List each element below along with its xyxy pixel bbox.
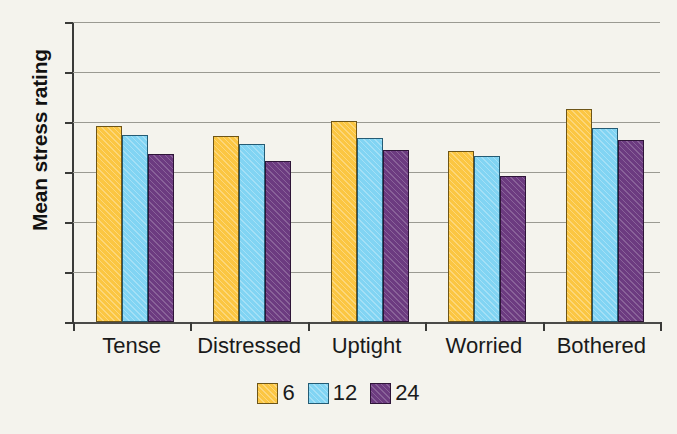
legend-swatch-24 [370, 383, 391, 404]
legend-entry-6: 6 [257, 382, 294, 404]
bar-tense-6 [96, 126, 122, 323]
bar-bothered-6 [566, 109, 592, 323]
bar-chart-figure: Mean stress rating 1234567 TenseDistress… [0, 0, 677, 434]
bar-uptight-6 [331, 121, 357, 323]
bar-tense-24 [148, 154, 174, 322]
bar-distressed-6 [213, 136, 239, 323]
bar-bothered-12 [592, 128, 618, 323]
x-axis-label-uptight: Uptight [308, 333, 425, 359]
bar-distressed-12 [239, 144, 265, 322]
x-axis-label-bothered: Bothered [543, 333, 660, 359]
y-axis-title: Mean stress rating [28, 30, 52, 250]
bar-uptight-12 [357, 138, 383, 323]
x-axis-label-worried: Worried [425, 333, 542, 359]
legend-entry-24: 24 [370, 382, 419, 404]
x-tick-mark [308, 322, 310, 331]
x-axis-label-tense: Tense [73, 333, 190, 359]
bar-tense-12 [122, 135, 148, 322]
legend-label-24: 24 [395, 382, 419, 404]
x-tick-mark [543, 322, 545, 331]
legend-swatch-6 [257, 383, 278, 404]
gridline-1 [73, 322, 660, 324]
bar-distressed-24 [265, 161, 291, 322]
bar-uptight-24 [383, 150, 409, 323]
bar-bothered-24 [618, 140, 644, 322]
gridline-6 [73, 72, 660, 73]
legend-label-12: 12 [333, 382, 357, 404]
legend-swatch-12 [308, 383, 329, 404]
bar-worried-6 [448, 151, 474, 323]
chart-legend: 61224 [0, 382, 677, 404]
x-tick-mark [73, 322, 75, 331]
x-tick-mark [425, 322, 427, 331]
bar-worried-12 [474, 156, 500, 322]
x-axis-label-distressed: Distressed [190, 333, 307, 359]
legend-label-6: 6 [282, 382, 294, 404]
x-tick-mark [190, 322, 192, 331]
gridline-7 [73, 22, 660, 23]
x-tick-mark [660, 322, 662, 331]
legend-entry-12: 12 [308, 382, 357, 404]
plot-area [73, 22, 660, 322]
bar-worried-24 [500, 176, 526, 323]
